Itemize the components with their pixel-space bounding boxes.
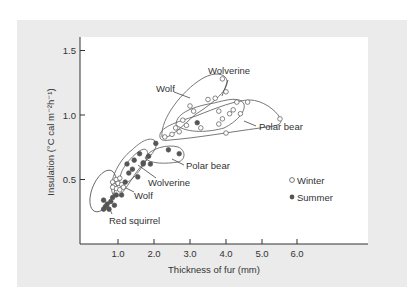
summer-point [146,154,151,159]
scatter-chart: 1.5 1.0 0.5 1.0 2.0 3.0 4.0 5.0 6.0 Thic… [0,0,413,297]
label-wolf-summer: Wolf [134,190,153,201]
winter-point [217,109,222,114]
summer-point [101,198,106,203]
x-tick-label: 4.0 [219,248,232,259]
summer-point [177,151,182,156]
summer-point [195,120,200,125]
summer-point [112,203,117,208]
y-tick-label: 1.0 [63,110,76,121]
legend-summer-label: Summer [297,192,333,203]
winter-point [199,126,204,131]
winter-point [224,131,229,136]
legend-summer-icon [290,195,295,200]
winter-point [231,108,236,113]
summer-point [137,151,142,156]
summer-point [119,193,124,198]
summer-point [141,160,146,165]
summer-point [114,193,119,198]
legend-winter-label: Winter [297,175,324,186]
winter-point [220,77,225,82]
winter-point [238,111,243,116]
winter-point [181,118,186,123]
winter-point [173,126,178,131]
winter-point [206,97,211,102]
legend-winter-icon [290,178,295,183]
winter-point [121,185,126,190]
summer-point [136,175,141,180]
winter-point [235,100,240,105]
summer-point [125,162,130,167]
winter-point [220,117,225,122]
summer-point [132,158,137,163]
winter-point [170,132,175,137]
x-tick-label: 3.0 [183,248,196,259]
x-tick-label: 6.0 [290,248,303,259]
winter-point [224,89,229,94]
x-tick-label: 1.0 [111,248,124,259]
y-tick-label: 0.5 [63,174,76,185]
winter-point [213,96,218,101]
winter-point [227,111,232,116]
summer-point [101,207,106,212]
winter-point [191,109,196,114]
summer-point [166,148,171,153]
winter-point [118,176,123,181]
label-wolf-winter: Wolf [156,83,175,94]
label-polarbear-winter: Polar bear [259,121,303,132]
summer-point [123,180,128,185]
winter-point [217,122,222,127]
summer-point [130,167,135,172]
label-wolverine-winter: Wolverine [208,65,250,76]
y-tick-label: 1.5 [63,45,76,56]
x-tick-label: 5.0 [255,248,268,259]
winter-point [163,135,168,140]
winter-point [245,100,250,105]
summer-point [107,207,112,212]
label-polarbear-summer: Polar bear [186,160,230,171]
summer-point [148,162,153,167]
x-axis-title: Thickness of fur (mm) [168,264,260,275]
winter-point [184,123,189,128]
summer-point [154,141,159,146]
y-axis-title: Insulation (°C cal m⁻²h⁻¹) [45,88,56,195]
x-tick-label: 2.0 [147,248,160,259]
summer-point [127,171,132,176]
winter-point [177,129,182,134]
winter-point [188,104,193,109]
label-wolverine-summer: Wolverine [148,177,190,188]
label-red-squirrel: Red squirrel [109,215,160,226]
winter-point [110,185,115,190]
